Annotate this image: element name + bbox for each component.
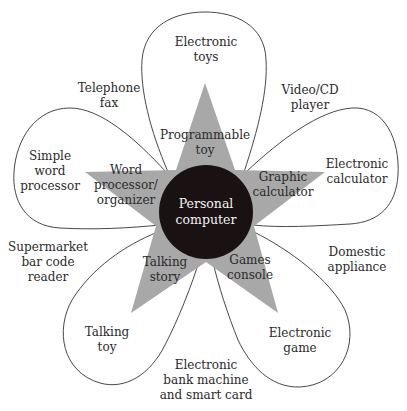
petal-label-electronic-calculator: Electronic calculator: [326, 157, 389, 187]
center-label: Personal computer: [176, 196, 237, 228]
outer-label-telephone-fax: Telephone fax: [78, 81, 141, 111]
outer-label-electronic-bank-machine: Electronic bank machine and smart card: [160, 358, 253, 403]
outer-label-supermarket-bar-code-reader: Supermarket bar code reader: [8, 240, 88, 285]
star-label-word-processor-organizer: Word processor/ organizer: [94, 163, 158, 208]
petal-label-talking-toy: Talking toy: [85, 325, 130, 355]
petal-label-electronic-game: Electronic game: [269, 326, 332, 356]
star-label-games-console: Games console: [227, 253, 273, 283]
petal-label-simple-word-processor: Simple word processor: [20, 149, 80, 194]
star-label-programmable-toy: Programmable toy: [160, 128, 250, 158]
star-label-graphic-calculator: Graphic calculator: [253, 170, 314, 200]
outer-label-domestic-appliance: Domestic appliance: [328, 245, 387, 275]
star-label-talking-story: Talking story: [143, 255, 188, 285]
petal-label-electronic-toys: Electronic toys: [175, 35, 238, 65]
outer-label-video-cd-player: Video/CD player: [281, 83, 338, 113]
technology-flower-diagram: Personal computer Programmable toy Graph…: [0, 0, 407, 411]
